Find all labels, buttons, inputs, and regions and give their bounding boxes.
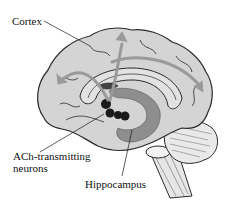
label-neurons: neurons [13,162,48,174]
label-hippocampus: Hippocampus [85,178,146,190]
label-cortex: Cortex [12,15,42,27]
label-ach-transmitting: ACh-transmitting [13,150,91,162]
